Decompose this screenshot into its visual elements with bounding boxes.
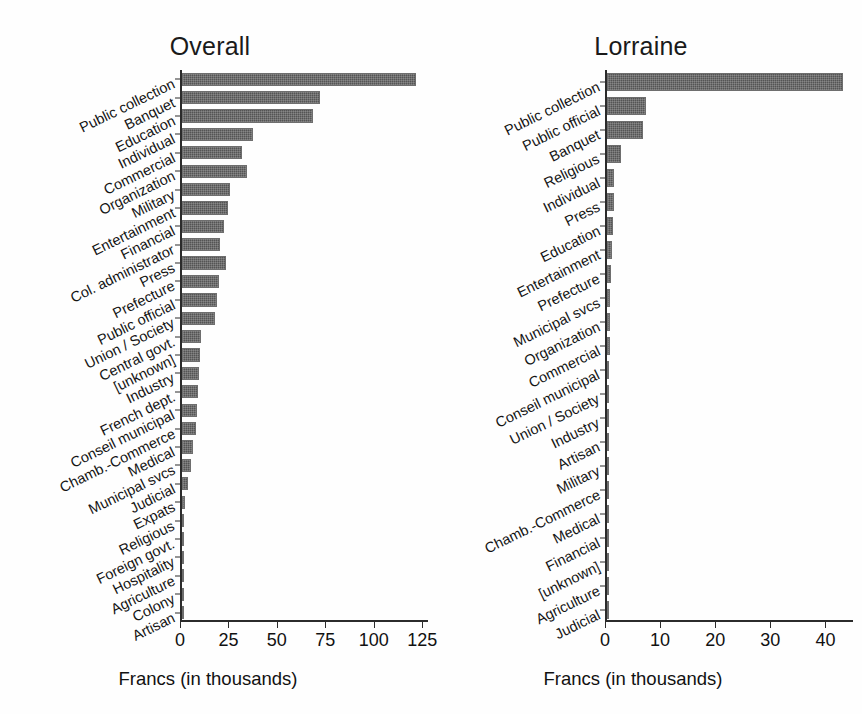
- bar-row: Military: [607, 454, 853, 478]
- bar-row: Commercial: [182, 144, 428, 162]
- x-tick-label: 10: [650, 630, 670, 651]
- x-tick-label: 20: [705, 630, 725, 651]
- bar-row: Education: [182, 107, 428, 125]
- two-panel-bar-figure: Overall Public collectionBanquetEducatio…: [0, 0, 862, 714]
- bar-rows-overall: Public collectionBanquetEducationIndivid…: [182, 70, 428, 622]
- x-tick-mark: [374, 622, 375, 628]
- x-tick-mark: [770, 622, 771, 628]
- x-tick-label: 0: [600, 630, 610, 651]
- x-tick-label: 0: [175, 630, 185, 651]
- x-axis-line-lorraine: [605, 620, 853, 622]
- bar-row: Artisan: [182, 603, 428, 621]
- bar: [182, 256, 226, 269]
- bar-row: Medical: [607, 502, 853, 526]
- bar-row: Union / Society: [182, 309, 428, 327]
- bar-row: Medical: [182, 438, 428, 456]
- bar-row: Banquet: [182, 88, 428, 106]
- panel-overall: Overall Public collectionBanquetEducatio…: [0, 0, 431, 714]
- bar-row: Prefecture: [182, 272, 428, 290]
- chart-title-overall: Overall: [60, 32, 360, 61]
- bar: [182, 312, 215, 325]
- x-axis-line-overall: [180, 620, 428, 622]
- bar-row: Individual: [182, 125, 428, 143]
- bar-row: Agriculture: [182, 567, 428, 585]
- bar: [182, 201, 228, 214]
- x-tick-label: 40: [815, 630, 835, 651]
- bar-row: Artisan: [607, 430, 853, 454]
- bar-row: Public official: [182, 291, 428, 309]
- bar: [182, 367, 199, 380]
- bar-row: Prefecture: [607, 262, 853, 286]
- bar-row: Industry: [182, 364, 428, 382]
- bar-row: Municipal svcs: [182, 456, 428, 474]
- bar-row: Chamb.-Commerce: [182, 419, 428, 437]
- bar: [182, 146, 242, 159]
- x-tick-mark: [605, 622, 606, 628]
- bar: [182, 293, 217, 306]
- bar: [607, 121, 643, 138]
- bar-row: Entertainment: [182, 199, 428, 217]
- bar: [182, 238, 220, 251]
- bar-row: Entertainment: [607, 238, 853, 262]
- bar-row: Financial: [182, 217, 428, 235]
- plot-area-overall: Public collectionBanquetEducationIndivid…: [180, 70, 428, 622]
- x-tick-label: 75: [315, 630, 335, 651]
- x-tick-mark: [325, 622, 326, 628]
- bar: [607, 97, 646, 114]
- bar-row: Press: [607, 190, 853, 214]
- bar-row: Hospitality: [182, 548, 428, 566]
- x-tick-mark: [228, 622, 229, 628]
- bar-row: Individual: [607, 166, 853, 190]
- x-tick-label: 100: [359, 630, 389, 651]
- x-axis-label-lorraine: Francs (in thousands): [483, 668, 783, 690]
- bar-row: Education: [607, 214, 853, 238]
- bar-row: Public collection: [607, 70, 853, 94]
- chart-title-lorraine: Lorraine: [491, 32, 791, 61]
- bar-row: Banquet: [607, 118, 853, 142]
- bar-row: Conseil municipal: [182, 401, 428, 419]
- plot-area-lorraine: Public collectionPublic officialBanquetR…: [605, 70, 853, 622]
- bar: [182, 220, 224, 233]
- bar-row: Judicial: [182, 475, 428, 493]
- bar: [182, 165, 247, 178]
- bar-row: Expats: [182, 493, 428, 511]
- bar-row: Press: [182, 254, 428, 272]
- bar-row: [unknown]: [607, 550, 853, 574]
- bar-row: Public official: [607, 94, 853, 118]
- bar: [182, 183, 230, 196]
- bar-row: Central govt.: [182, 327, 428, 345]
- x-tick-mark: [715, 622, 716, 628]
- bar-row: [unknown]: [182, 346, 428, 364]
- x-axis-label-overall: Francs (in thousands): [58, 668, 358, 690]
- bar-row: Religious: [182, 511, 428, 529]
- bar-row: Industry: [607, 406, 853, 430]
- bar-row: Municipal svcs: [607, 286, 853, 310]
- bar-row: Conseil municipal: [607, 358, 853, 382]
- bar-row: Public collection: [182, 70, 428, 88]
- bar: [182, 73, 416, 86]
- bar: [182, 109, 313, 122]
- bar-row: Financial: [607, 526, 853, 550]
- bar: [182, 91, 320, 104]
- x-tick-mark: [422, 622, 423, 628]
- bar-row: Judicial: [607, 598, 853, 622]
- x-tick-mark: [180, 622, 181, 628]
- bar-row: Chamb.-Commerce: [607, 478, 853, 502]
- panel-lorraine: Lorraine Public collectionPublic officia…: [431, 0, 862, 714]
- bar: [182, 275, 219, 288]
- bar-rows-lorraine: Public collectionPublic officialBanquetR…: [607, 70, 853, 622]
- bar-row: Organization: [607, 310, 853, 334]
- bar-row: Agriculture: [607, 574, 853, 598]
- x-tick-mark: [660, 622, 661, 628]
- bar-row: Col. administrator: [182, 236, 428, 254]
- bar-row: Organization: [182, 162, 428, 180]
- bar-row: Colony: [182, 585, 428, 603]
- x-tick-mark: [825, 622, 826, 628]
- x-tick-label: 25: [218, 630, 238, 651]
- x-tick-label: 30: [760, 630, 780, 651]
- bar: [182, 128, 253, 141]
- bar-row: Military: [182, 180, 428, 198]
- bar-row: Foreign govt.: [182, 530, 428, 548]
- bar: [607, 73, 843, 90]
- bar-row: Religious: [607, 142, 853, 166]
